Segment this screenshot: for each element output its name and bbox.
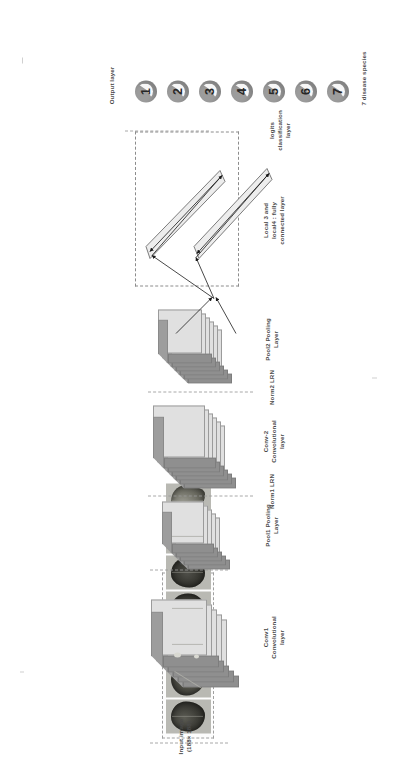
output-layer-label: Output layer (108, 62, 116, 108)
figure-canvas: Input image (188× 188) Image of 7 tea le… (0, 0, 396, 763)
pool2-to-fc-arrow (176, 297, 212, 333)
output-node-value: 7 (332, 88, 345, 95)
output-layer-caption: 7 disease species (360, 43, 368, 113)
output-node-value: 6 (300, 88, 313, 95)
output-node-value: 2 (172, 88, 185, 95)
output-node-1[interactable]: 1 (135, 80, 157, 102)
output-node-5[interactable]: 5 (263, 80, 285, 102)
output-node-value: 3 (204, 88, 217, 95)
pool2-to-fc-arrow (216, 297, 236, 333)
output-node-6[interactable]: 6 (295, 80, 317, 102)
output-node-4[interactable]: 4 (231, 80, 253, 102)
output-node-value: 1 (140, 88, 153, 95)
output-node-value: 5 (268, 88, 281, 95)
cnn-architecture-figure: Input image (188× 188) Image of 7 tea le… (0, 0, 396, 763)
output-node-3[interactable]: 3 (199, 80, 221, 102)
output-node-2[interactable]: 2 (167, 80, 189, 102)
output-node-value: 4 (236, 88, 249, 95)
fully-connected-label: Local 3 and local4 : fully connected lay… (262, 189, 287, 251)
output-node-7[interactable]: 7 (327, 80, 349, 102)
fc-connections (0, 0, 396, 763)
